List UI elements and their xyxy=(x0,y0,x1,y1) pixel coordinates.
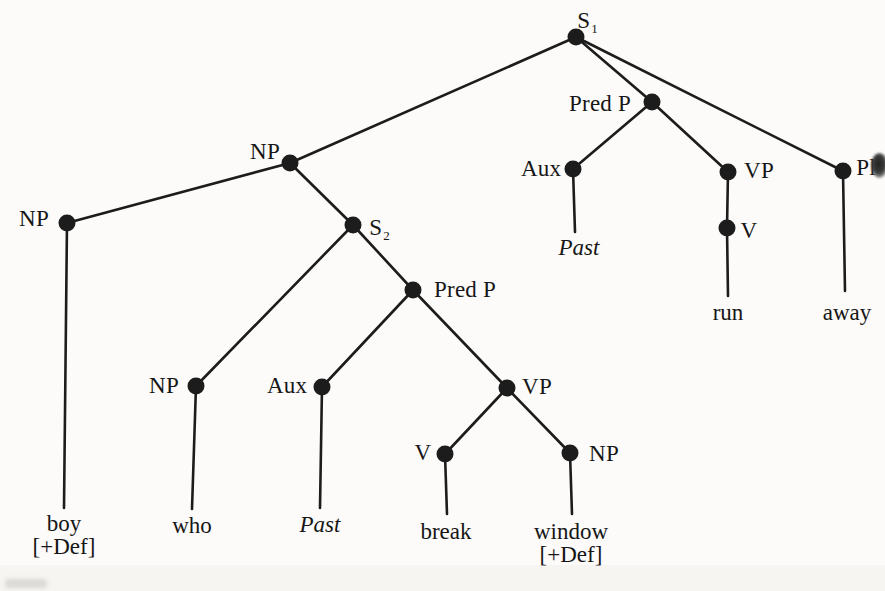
node-dot-v_top xyxy=(719,220,736,237)
node-dot-predp_low xyxy=(405,282,422,299)
tree-edge-vp_low-v_low xyxy=(445,388,507,454)
node-label-text: V xyxy=(741,218,758,243)
terminal-word-window: window[+Def] xyxy=(534,520,608,566)
tree-edge-predp_low-vp_low xyxy=(413,290,507,388)
node-label-text: NP xyxy=(19,206,49,231)
terminal-word-line: window xyxy=(534,520,608,543)
terminal-word-line: [+Def] xyxy=(534,543,608,566)
terminal-word-line: boy xyxy=(33,512,96,535)
node-label-text: Pred P xyxy=(434,277,496,302)
node-label-np_boy: NP xyxy=(19,206,49,232)
node-label-vp_top: VP xyxy=(744,158,774,184)
node-label-aux_low: Aux xyxy=(267,373,307,399)
node-label-text: VP xyxy=(522,374,552,399)
terminal-word-line: Past xyxy=(559,236,600,259)
tree-edge-s1-np_subj xyxy=(290,37,576,163)
terminal-word-line: break xyxy=(420,520,471,543)
node-label-s2: S2 xyxy=(369,215,389,241)
node-dot-pl xyxy=(835,163,852,180)
node-dot-predp_top xyxy=(644,94,661,111)
paper-shading xyxy=(0,565,885,591)
tree-edge-np_subj-s2 xyxy=(290,163,353,225)
node-label-text: S xyxy=(577,8,590,33)
node-dot-aux_top xyxy=(565,161,582,178)
terminal-word-line: run xyxy=(713,301,744,324)
node-label-text: NP xyxy=(149,373,179,398)
node-dot-v_low xyxy=(437,446,454,463)
node-label-np_subj: NP xyxy=(250,139,280,165)
tree-edge-predp_top-vp_top xyxy=(652,102,728,172)
node-label-text: NP xyxy=(250,139,280,164)
node-label-v_low: V xyxy=(415,440,432,466)
terminal-drop-np_who xyxy=(192,386,196,509)
node-label-subscript: 2 xyxy=(383,228,390,243)
node-dot-aux_low xyxy=(314,379,331,396)
tree-edge-predp_low-aux_low xyxy=(322,290,413,387)
terminal-word-past_low: Past xyxy=(300,513,341,536)
node-label-text: Aux xyxy=(267,373,307,398)
scanned-page: S1NPNPS2Pred PAuxVPVPlNPAuxPred PVPVNPbo… xyxy=(0,0,885,591)
node-label-np_win: NP xyxy=(589,441,619,467)
node-label-v_top: V xyxy=(741,218,758,244)
terminal-word-past_top: Past xyxy=(559,236,600,259)
terminal-word-boy: boy[+Def] xyxy=(33,512,96,558)
node-dot-np_who xyxy=(188,378,205,395)
node-dot-s2 xyxy=(345,217,362,234)
node-label-vp_low: VP xyxy=(522,374,552,400)
terminal-drop-np_win xyxy=(570,453,572,514)
node-label-text: VP xyxy=(744,158,774,183)
terminal-word-run: run xyxy=(713,301,744,324)
node-label-aux_top: Aux xyxy=(521,156,561,182)
node-dot-np_boy xyxy=(59,215,76,232)
tree-edge-s2-np_who xyxy=(196,225,353,386)
terminal-word-who: who xyxy=(172,514,212,537)
terminal-drop-v_low xyxy=(445,454,447,514)
node-label-predp_top: Pred P xyxy=(569,91,631,117)
node-dot-np_subj xyxy=(282,155,299,172)
node-label-s1: S1 xyxy=(577,8,597,34)
terminal-drop-v_top xyxy=(727,228,728,296)
terminal-drop-np_boy xyxy=(64,223,67,508)
terminal-word-line: [+Def] xyxy=(33,535,96,558)
terminal-word-away: away xyxy=(823,301,872,324)
node-label-predp_low: Pred P xyxy=(434,277,496,303)
node-label-text: NP xyxy=(589,441,619,466)
node-label-text: S xyxy=(369,215,382,240)
ink-smudge xyxy=(871,153,885,178)
terminal-drop-pl xyxy=(843,171,845,291)
terminal-word-line: Past xyxy=(300,513,341,536)
terminal-word-line: who xyxy=(172,514,212,537)
node-label-text: V xyxy=(415,440,432,465)
node-label-text: Aux xyxy=(521,156,561,181)
node-dot-vp_low xyxy=(499,380,516,397)
terminal-word-break: break xyxy=(420,520,471,543)
node-label-text: Pred P xyxy=(569,91,631,116)
tree-edge-np_subj-np_boy xyxy=(67,163,290,223)
node-dot-vp_top xyxy=(720,164,737,181)
terminal-word-line: away xyxy=(823,301,872,324)
terminal-drop-aux_top xyxy=(573,169,575,232)
terminal-drop-aux_low xyxy=(320,387,322,508)
node-label-np_who: NP xyxy=(149,373,179,399)
node-label-subscript: 1 xyxy=(591,21,598,36)
node-dot-np_win xyxy=(562,445,579,462)
